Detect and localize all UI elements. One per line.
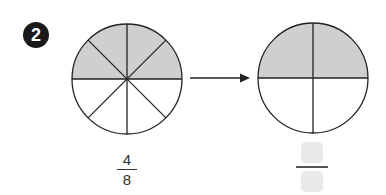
fraction-bar	[296, 166, 328, 168]
fraction-bar	[117, 169, 137, 170]
right-circle-quarters	[258, 23, 368, 133]
arrow-icon	[190, 74, 250, 83]
answer-fraction	[296, 142, 328, 192]
fraction-diagram	[0, 0, 386, 195]
left-circle-eighths	[72, 24, 182, 134]
numerator: 4	[115, 152, 139, 167]
left-fraction-label: 4 8	[115, 152, 139, 187]
denominator-answer-box[interactable]	[301, 171, 323, 192]
numerator-answer-box[interactable]	[301, 142, 323, 163]
denominator: 8	[115, 172, 139, 187]
